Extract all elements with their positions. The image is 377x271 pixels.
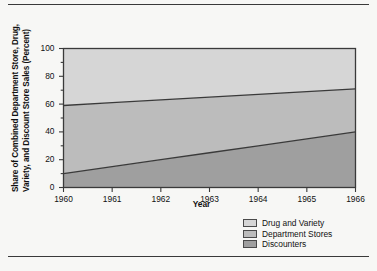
x-axis-tick-label: 1966 [339,194,373,204]
legend-item: Drug and Variety [243,218,332,229]
y-axis-tick-label: 100 [33,43,55,53]
legend-swatch-drug-and-variety [243,219,257,227]
x-axis-tick-label: 1960 [47,194,81,204]
legend-swatch-discounters [243,240,257,248]
y-axis-tick-label: 20 [33,154,55,164]
figure-container: Share of Combined Department Store, Drug… [0,0,377,271]
chart-legend: Drug and Variety Department Stores Disco… [243,218,332,250]
y-axis-tick-label: 80 [33,71,55,81]
legend-item: Department Stores [243,229,332,240]
y-axis-tick-label: 40 [33,126,55,136]
legend-item: Discounters [243,239,332,250]
x-axis-tick-label: 1965 [290,194,324,204]
x-axis-tick-label: 1964 [241,194,275,204]
legend-label-drug-and-variety: Drug and Variety [262,218,324,229]
legend-label-discounters: Discounters [262,239,306,250]
y-axis-tick-label: 0 [33,182,55,192]
x-axis-tick-label: 1963 [193,194,227,204]
x-axis-tick-label: 1961 [95,194,129,204]
legend-label-department-stores: Department Stores [262,229,332,240]
y-axis-tick-label: 60 [33,99,55,109]
legend-swatch-department-stores [243,230,257,238]
x-axis-tick-label: 1962 [144,194,178,204]
